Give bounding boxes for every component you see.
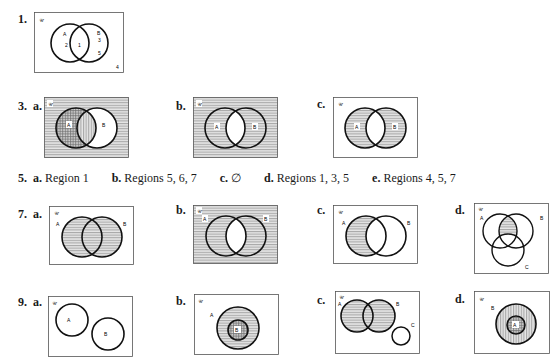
universe-label: 𝒰 <box>39 17 44 23</box>
venn-diagram-problem-3a: 𝒰 A B <box>44 97 130 159</box>
problem-3b-letter: b. <box>176 99 186 114</box>
venn-diagram-problem-3c: 𝒰 A B <box>333 97 419 159</box>
venn-diagram-problem-7b: 𝒰 A B <box>193 205 279 265</box>
universe-label: 𝒰 <box>198 298 203 304</box>
universe-label: 𝒰 <box>54 210 59 216</box>
universe-label: 𝒰 <box>48 101 53 107</box>
universe-label: 𝒰 <box>197 101 202 107</box>
universe-label: 𝒰 <box>52 300 57 306</box>
venn-diagram-problem-7d: 𝒰 A B C <box>474 203 550 275</box>
universe-label: 𝒰 <box>338 209 343 215</box>
universe-label: 𝒰 <box>338 101 343 107</box>
label-c: C <box>525 264 529 270</box>
answer-5d: d. Regions 1, 3, 5 <box>264 171 349 185</box>
region-2-label: 2 <box>65 42 68 48</box>
venn-diagram-problem-1: 𝒰 A 2 1 B 3 5 4 <box>34 12 126 74</box>
problem-7d-letter: d. <box>455 203 465 218</box>
problem-3a-letter: a. <box>33 99 42 114</box>
problem-9d-letter: d. <box>455 292 465 307</box>
answer-5a: a. Region 1 <box>33 171 89 185</box>
universe-label: 𝒰 <box>478 206 483 212</box>
venn-diagram-problem-3b: 𝒰 A B <box>193 97 279 159</box>
universe-label: 𝒰 <box>339 294 344 300</box>
problem-1-number: 1. <box>18 12 27 27</box>
venn-diagram-problem-7a: 𝒰 A B <box>49 206 135 266</box>
venn-diagram-problem-9b: B 𝒰 A <box>194 294 280 356</box>
venn-diagram-problem-9a: 𝒰 A B <box>48 296 134 358</box>
venn-diagram-problem-9c: 𝒰 A B C <box>335 291 421 355</box>
problem-7c-letter: c. <box>317 203 325 218</box>
problem-9c-letter: c. <box>317 293 325 308</box>
venn-diagram-problem-7c: 𝒰 A B <box>333 205 419 265</box>
region-4-label: 4 <box>116 64 119 70</box>
answer-5c: c. ∅ <box>220 171 241 185</box>
problem-9b-letter: b. <box>176 294 186 309</box>
region-3-label: 3 <box>98 37 101 43</box>
problem-9a-letter: a. <box>33 295 42 310</box>
problem-3-number: 3. <box>18 99 27 114</box>
problem-7b-letter: b. <box>176 203 186 218</box>
problem-7-number: 7. <box>18 207 27 222</box>
problem-3c-letter: c. <box>317 97 325 112</box>
universe-label: 𝒰 <box>197 208 202 214</box>
region-1-label: 1 <box>78 42 81 48</box>
answer-5b: b. Regions 5, 6, 7 <box>112 171 197 185</box>
problem-7a-letter: a. <box>33 207 42 222</box>
problem-9-number: 9. <box>18 295 27 310</box>
region-5-label: 5 <box>98 50 101 56</box>
problem-5-answers: 5. a. Region 1 b. Regions 5, 6, 7 c. ∅ d… <box>18 171 476 186</box>
universe-label: 𝒰 <box>479 296 484 302</box>
venn-diagram-problem-9d: A 𝒰 B <box>474 291 550 355</box>
problem-5-number: 5. <box>18 171 27 185</box>
label-c: C <box>411 322 415 328</box>
answer-5e: e. Regions 4, 5, 7 <box>372 171 456 185</box>
